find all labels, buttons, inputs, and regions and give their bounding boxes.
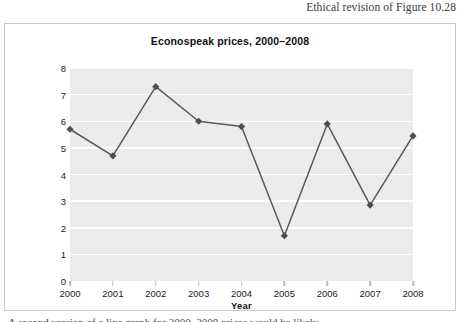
x-tick-mark (412, 281, 414, 286)
page-header-caption: Ethical revision of Figure 10.28 (306, 1, 456, 13)
x-tick-label: 2003 (177, 288, 221, 299)
data-point-marker (238, 123, 245, 130)
y-tick-label: 7 (40, 89, 66, 100)
data-point-marker (66, 126, 73, 133)
x-tick-label: 2005 (262, 288, 306, 299)
x-tick-label: 2000 (48, 288, 92, 299)
x-axis-label: Year (70, 300, 413, 311)
x-tick-mark (327, 281, 329, 286)
y-tick-label: 3 (40, 196, 66, 207)
y-tick-label: 5 (40, 142, 66, 153)
x-tick-label: 2002 (134, 288, 178, 299)
x-tick-mark (155, 281, 157, 286)
x-tick-label: 2006 (305, 288, 349, 299)
x-tick-mark (69, 281, 71, 286)
y-axis-tick-labels: 012345678 (38, 68, 66, 281)
plot-area (70, 68, 413, 281)
x-tick-label: 2004 (220, 288, 264, 299)
y-tick-label: 2 (40, 222, 66, 233)
price-line-series (70, 68, 413, 281)
x-tick-mark (241, 281, 243, 286)
data-point-marker (281, 232, 288, 239)
y-tick-label: 4 (40, 169, 66, 180)
y-tick-label: 0 (40, 276, 66, 287)
data-point-marker (367, 202, 374, 209)
bottom-clipped-caption: A second version of a line graph for 200… (8, 316, 454, 322)
x-tick-label: 2001 (91, 288, 135, 299)
y-tick-label: 6 (40, 116, 66, 127)
series-line (70, 87, 413, 236)
data-point-marker (324, 120, 331, 127)
x-tick-mark (369, 281, 371, 286)
data-point-marker (409, 132, 416, 139)
figure-frame: Econospeak prices, 2000–2008 Price per S… (4, 23, 456, 311)
x-tick-label: 2008 (391, 288, 435, 299)
y-tick-label: 8 (40, 63, 66, 74)
y-tick-label: 1 (40, 249, 66, 260)
chart-title: Econospeak prices, 2000–2008 (5, 35, 455, 47)
x-tick-label: 2007 (348, 288, 392, 299)
x-tick-mark (198, 281, 200, 286)
x-tick-mark (284, 281, 286, 286)
x-tick-mark (112, 281, 114, 286)
data-point-marker (109, 152, 116, 159)
